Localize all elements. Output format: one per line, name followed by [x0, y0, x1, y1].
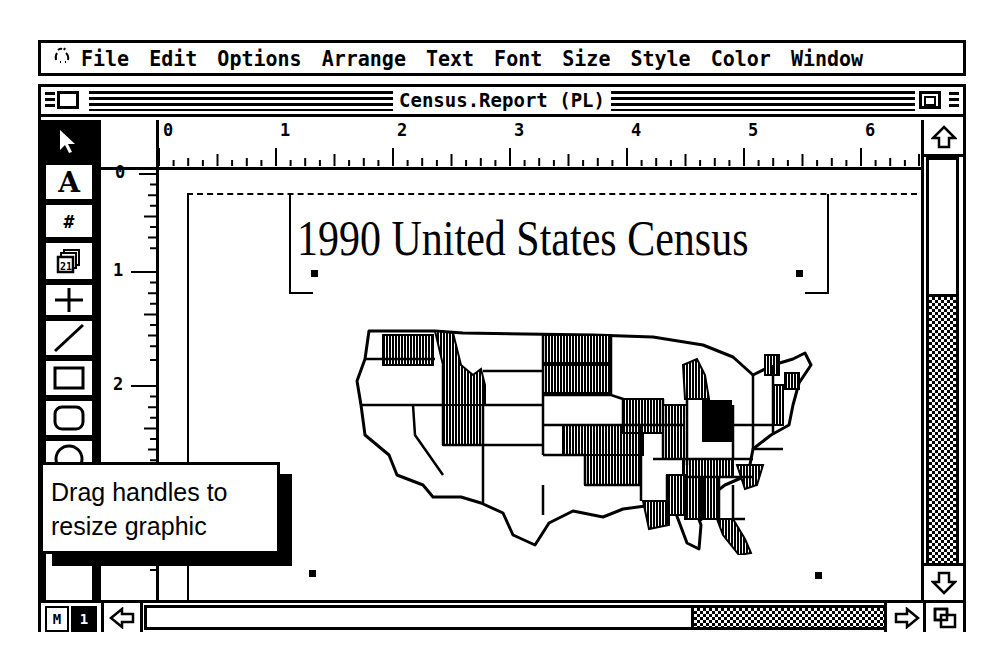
- rectangle-tool-icon: [52, 365, 86, 391]
- scroll-right-arrow-icon: [894, 607, 920, 629]
- h-ruler-label-3: 3: [514, 120, 524, 140]
- v-ruler-label-0: 0: [115, 162, 125, 182]
- arrow-pointer-icon: [56, 128, 82, 156]
- vertical-scroll-thumb[interactable]: [926, 157, 959, 297]
- title-bar[interactable]: Census.Report (PL): [41, 87, 963, 117]
- zoom-box-icon[interactable]: [919, 90, 959, 112]
- menu-bar: File Edit Options Arrange Text Font Size…: [38, 40, 966, 76]
- page-number-tool[interactable]: #: [44, 203, 94, 239]
- horizontal-scroll-track[interactable]: [694, 605, 884, 630]
- help-callout: Drag handles to resize graphic: [40, 462, 280, 554]
- vertical-scrollbar[interactable]: [921, 120, 963, 600]
- h-ruler-label-0: 0: [163, 120, 173, 140]
- apple-menu-icon[interactable]: [45, 45, 81, 71]
- menu-arrange[interactable]: Arrange: [322, 45, 406, 71]
- headline-text[interactable]: 1990 United States Census: [297, 210, 748, 266]
- rounded-rectangle-tool[interactable]: [44, 399, 94, 437]
- horizontal-scroll-thumb[interactable]: [144, 605, 694, 630]
- scroll-up-arrow-icon: [931, 125, 957, 149]
- menu-font[interactable]: Font: [494, 45, 542, 71]
- resize-handle[interactable]: [311, 270, 318, 277]
- svg-text:21: 21: [60, 261, 72, 272]
- frame-corner: [291, 292, 313, 294]
- h-ruler-label-5: 5: [748, 120, 758, 140]
- line-tool[interactable]: [44, 319, 94, 357]
- rectangle-tool[interactable]: [44, 359, 94, 397]
- calendar-icon: 21: [55, 247, 83, 275]
- callout-line-2: resize graphic: [51, 509, 269, 543]
- page-number-icon: #: [64, 211, 75, 232]
- menu-size[interactable]: Size: [562, 45, 610, 71]
- close-box-icon[interactable]: [45, 90, 85, 112]
- v-ruler-label-2: 2: [113, 374, 123, 394]
- resize-handle[interactable]: [309, 570, 316, 577]
- menu-color[interactable]: Color: [711, 45, 771, 71]
- scroll-left-button[interactable]: [104, 603, 143, 632]
- menu-file[interactable]: File: [81, 45, 129, 71]
- h-ruler-label-6: 6: [865, 120, 875, 140]
- vertical-scroll-track[interactable]: [926, 297, 959, 563]
- h-ruler-label-2: 2: [397, 120, 407, 140]
- rounded-rectangle-tool-icon: [52, 404, 86, 432]
- pointer-tool[interactable]: [44, 123, 94, 161]
- line-tool-icon: [52, 322, 86, 354]
- callout-line-1: Drag handles to: [51, 475, 269, 509]
- scroll-up-button[interactable]: [924, 120, 963, 157]
- menu-style[interactable]: Style: [630, 45, 690, 71]
- scroll-down-button[interactable]: [924, 563, 963, 600]
- page-1-icon[interactable]: 1: [71, 606, 97, 632]
- date-tool[interactable]: 21: [44, 241, 94, 281]
- v-ruler-label-1: 1: [113, 260, 123, 280]
- crosshair-tool[interactable]: [44, 283, 94, 317]
- frame-corner: [805, 292, 827, 294]
- h-ruler-label-1: 1: [280, 120, 290, 140]
- resize-handle[interactable]: [796, 270, 803, 277]
- ruler-origin-box[interactable]: [101, 120, 159, 170]
- scroll-down-arrow-icon: [931, 571, 957, 595]
- headline-text-frame[interactable]: 1990 United States Census: [289, 194, 829, 294]
- grow-box-icon: [932, 606, 958, 630]
- text-tool-icon: A: [58, 166, 80, 199]
- h-ruler-label-4: 4: [631, 120, 641, 140]
- page-icons: M 1: [41, 600, 101, 632]
- grow-box[interactable]: [923, 600, 963, 632]
- text-tool[interactable]: A: [44, 163, 94, 201]
- horizontal-ruler[interactable]: 0 1 2 3 4 5 6: [159, 120, 921, 170]
- menu-edit[interactable]: Edit: [149, 45, 197, 71]
- resize-handle[interactable]: [815, 572, 822, 579]
- window-title: Census.Report (PL): [393, 89, 611, 111]
- menu-text[interactable]: Text: [426, 45, 474, 71]
- horizontal-ruler-ticks: [159, 120, 921, 167]
- menu-window[interactable]: Window: [791, 45, 863, 71]
- scroll-left-arrow-icon: [109, 607, 135, 629]
- scroll-right-button[interactable]: [884, 603, 926, 632]
- menu-options[interactable]: Options: [217, 45, 301, 71]
- horizontal-scrollbar[interactable]: [101, 600, 923, 632]
- crosshair-icon: [53, 286, 85, 314]
- us-map-graphic[interactable]: [353, 325, 815, 555]
- master-page-icon[interactable]: M: [45, 606, 69, 632]
